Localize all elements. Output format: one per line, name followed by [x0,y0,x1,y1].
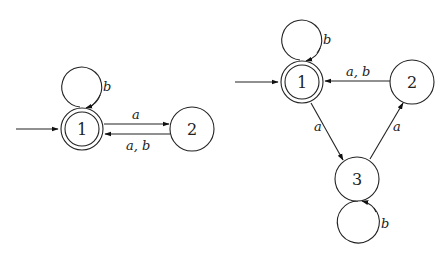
right-edge-1-3-label: a [314,119,322,134]
left-loop-label: b [103,79,111,94]
right-loop-1-label: b [323,32,331,47]
right-state-1-label: 1 [297,73,307,92]
left-loop-1 [62,67,102,107]
left-automaton: b a a, b 1 2 [16,67,214,153]
right-loop-3-label: b [381,216,389,231]
right-loop-1 [282,20,322,60]
left-edge-1-2-label: a [132,107,140,122]
left-state-2-label: 2 [187,120,197,139]
right-state-2-label: 2 [407,73,417,92]
right-edge-3-2-label: a [393,119,401,134]
right-state-3-label: 3 [352,170,362,189]
left-edge-2-1-label: a, b [126,138,150,153]
automata-diagram: b a a, b 1 2 b a, b a a b [0,0,447,258]
left-state-1-label: 1 [77,120,87,139]
right-automaton: b a, b a a b 1 2 3 [235,20,434,243]
right-edge-2-1-label: a, b [346,64,370,79]
